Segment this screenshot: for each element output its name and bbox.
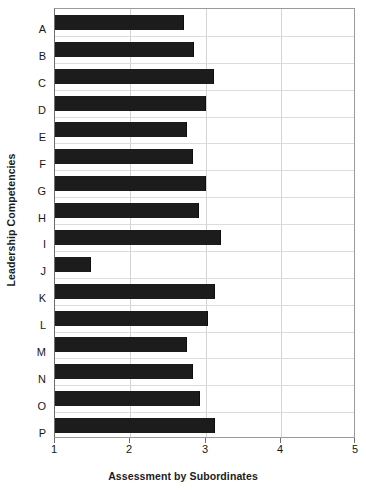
bar-m bbox=[55, 337, 187, 352]
gridline-horizontal bbox=[55, 305, 354, 306]
y-tick-label-h: H bbox=[38, 212, 46, 223]
bar-i bbox=[55, 230, 221, 245]
bar-j bbox=[55, 257, 91, 272]
bar-chart: Leadership Competencies ABCDEFGHIJKLMNOP… bbox=[0, 0, 366, 496]
gridline-horizontal bbox=[55, 358, 354, 359]
y-tick-label-p: P bbox=[39, 427, 46, 438]
bar-l bbox=[55, 311, 208, 326]
bar-d bbox=[55, 96, 206, 111]
y-tick-label-i: I bbox=[43, 239, 46, 250]
bar-o bbox=[55, 391, 200, 406]
gridline-horizontal bbox=[55, 117, 354, 118]
y-tick-label-k: K bbox=[39, 293, 46, 304]
y-tick-label-d: D bbox=[38, 105, 46, 116]
gridline-horizontal bbox=[55, 170, 354, 171]
bar-p bbox=[55, 418, 215, 433]
y-axis-title-text: Leadership Competencies bbox=[4, 153, 16, 286]
y-axis-title: Leadership Competencies bbox=[0, 0, 20, 440]
gridline-horizontal bbox=[55, 36, 354, 37]
gridline-horizontal bbox=[55, 412, 354, 413]
y-tick-label-l: L bbox=[40, 320, 46, 331]
x-tick-label-5: 5 bbox=[352, 444, 358, 455]
bar-k bbox=[55, 284, 215, 299]
gridline-horizontal bbox=[55, 63, 354, 64]
gridline-horizontal bbox=[55, 251, 354, 252]
bar-c bbox=[55, 69, 214, 84]
y-tick-label-f: F bbox=[39, 158, 46, 169]
bar-a bbox=[55, 15, 184, 30]
x-tick-label-1: 1 bbox=[51, 444, 57, 455]
gridline-horizontal bbox=[55, 143, 354, 144]
x-tick-label-2: 2 bbox=[126, 444, 132, 455]
y-axis-tick-labels: ABCDEFGHIJKLMNOP bbox=[22, 8, 50, 438]
y-tick-label-j: J bbox=[41, 266, 47, 277]
gridline-horizontal bbox=[55, 90, 354, 91]
bar-f bbox=[55, 149, 193, 164]
y-tick-label-o: O bbox=[37, 400, 46, 411]
y-tick-label-b: B bbox=[39, 51, 46, 62]
gridline-vertical bbox=[281, 9, 282, 437]
x-axis-title: Assessment by Subordinates bbox=[0, 470, 366, 482]
x-tick-label-4: 4 bbox=[277, 444, 283, 455]
y-tick-label-g: G bbox=[37, 185, 46, 196]
bar-e bbox=[55, 122, 187, 137]
gridline-horizontal bbox=[55, 224, 354, 225]
gridline-horizontal bbox=[55, 278, 354, 279]
y-tick-label-c: C bbox=[38, 78, 46, 89]
y-tick-label-n: N bbox=[38, 373, 46, 384]
bar-h bbox=[55, 203, 199, 218]
gridline-horizontal bbox=[55, 385, 354, 386]
y-tick-label-a: A bbox=[39, 24, 46, 35]
bar-n bbox=[55, 364, 193, 379]
x-tick-label-3: 3 bbox=[202, 444, 208, 455]
y-tick-label-m: M bbox=[37, 346, 46, 357]
bar-g bbox=[55, 176, 206, 191]
gridline-horizontal bbox=[55, 197, 354, 198]
plot-area bbox=[54, 8, 355, 438]
bar-b bbox=[55, 42, 194, 57]
x-axis: 12345 bbox=[54, 438, 355, 468]
gridline-horizontal bbox=[55, 332, 354, 333]
y-tick-label-e: E bbox=[39, 131, 46, 142]
